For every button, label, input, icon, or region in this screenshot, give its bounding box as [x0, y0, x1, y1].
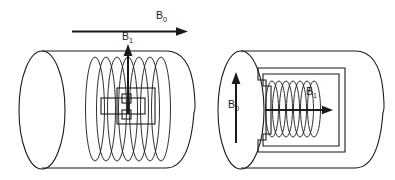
figure-canvas: B0: [0, 0, 395, 180]
left-panel: B1: [19, 30, 195, 169]
b0-main-label: B0: [156, 9, 167, 24]
left-bore-cylinder: [19, 51, 195, 169]
right-b0-label: B0: [228, 98, 239, 113]
b0-main-arrow: [72, 27, 188, 35]
left-coil-former: [117, 88, 155, 124]
right-panel: B1 B0: [218, 51, 384, 169]
nmr-probe-diagram: B0: [0, 0, 395, 180]
